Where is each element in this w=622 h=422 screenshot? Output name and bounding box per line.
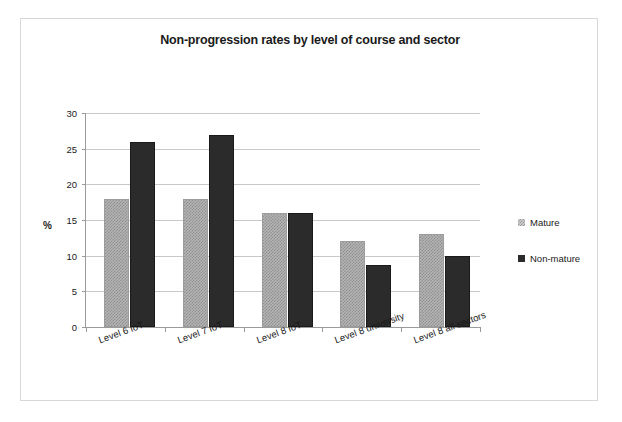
x-tick-mark [86, 327, 87, 332]
chart-legend: Mature Non-mature [518, 217, 598, 289]
bar-group [104, 113, 155, 327]
chart-card: Non-progression rates by level of course… [20, 18, 598, 401]
x-tick-mark [480, 327, 481, 332]
legend-swatch-non-mature-icon [518, 255, 525, 262]
bar-group [340, 113, 391, 327]
y-tick-mark [82, 149, 86, 150]
cut-off-text-line: · ·· · ·· · ···· ·· · ··· · ·· ··· ·· · … [28, 0, 188, 2]
y-tick-mark [82, 113, 86, 114]
legend-item-non-mature[interactable]: Non-mature [518, 253, 598, 264]
bar-non-mature[interactable] [130, 142, 155, 327]
legend-label-non-mature: Non-mature [530, 253, 580, 264]
bar-mature[interactable] [262, 213, 287, 327]
plot-wrapper: % 051015202530 Level 6 IoTLevel 7 IoTLev… [21, 19, 599, 402]
y-tick-label: 5 [72, 286, 77, 297]
legend-item-mature[interactable]: Mature [518, 217, 598, 228]
bar-mature[interactable] [104, 199, 129, 327]
scan-artifact-strip: · ·· · ·· · ···· ·· · ··· · ·· ··· ·· · … [0, 0, 622, 11]
bar-non-mature[interactable] [209, 135, 234, 327]
y-tick-mark [82, 256, 86, 257]
y-tick-label: 15 [66, 215, 77, 226]
bar-mature[interactable] [419, 234, 444, 327]
x-tick-mark [165, 327, 166, 332]
bar-non-mature[interactable] [288, 213, 313, 327]
bar-group [419, 113, 470, 327]
y-tick-label: 0 [72, 322, 77, 333]
y-tick-mark [82, 220, 86, 221]
bar-mature[interactable] [340, 241, 365, 327]
y-axis-title: % [43, 220, 52, 231]
bar-group [183, 113, 234, 327]
plot-area: 051015202530 [85, 113, 480, 328]
bar-mature[interactable] [183, 199, 208, 327]
y-tick-mark [82, 184, 86, 185]
legend-label-mature: Mature [530, 217, 560, 228]
x-tick-mark [244, 327, 245, 332]
x-tick-mark [401, 327, 402, 332]
x-tick-mark [322, 327, 323, 332]
y-tick-label: 10 [66, 250, 77, 261]
y-tick-label: 30 [66, 108, 77, 119]
y-tick-mark [82, 291, 86, 292]
y-tick-label: 25 [66, 143, 77, 154]
legend-swatch-mature-icon [518, 219, 525, 226]
bar-group [262, 113, 313, 327]
y-tick-label: 20 [66, 179, 77, 190]
